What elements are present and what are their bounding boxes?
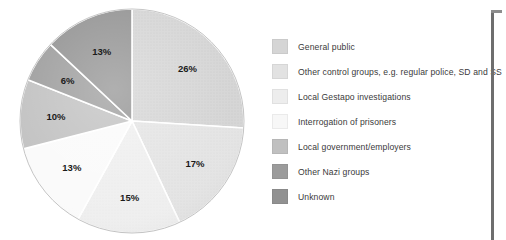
legend-item-label: General public: [298, 42, 355, 52]
pie-slice-label: 13%: [92, 46, 112, 57]
chart-legend: General publicOther control groups, e.g.…: [272, 34, 484, 209]
legend-item-label: Local government/employers: [298, 142, 411, 152]
pie-slice-label: 13%: [62, 162, 82, 173]
legend-item[interactable]: Local Gestapo investigations: [272, 84, 484, 109]
legend-swatch-other-nazi-groups: [272, 164, 288, 179]
legend-item-label: Interrogation of prisoners: [298, 117, 396, 127]
legend-swatch-general-public: [272, 39, 288, 54]
legend-swatch-unknown: [272, 189, 288, 204]
pie-slice-label: 6%: [61, 75, 75, 86]
legend-item-label: Other control groups, e.g. regular polic…: [298, 67, 502, 77]
pie-chart-svg: 26%17%15%13%10%6%13%: [18, 8, 246, 234]
pie-slice-label: 15%: [120, 192, 140, 203]
pie-chart-plot-area: 26%17%15%13%10%6%13%: [18, 8, 246, 234]
pie-slice-label: 26%: [178, 63, 198, 74]
legend-item[interactable]: Other control groups, e.g. regular polic…: [272, 59, 484, 84]
legend-item[interactable]: Unknown: [272, 184, 484, 209]
pie-chart-figure: 26%17%15%13%10%6%13% General publicOther…: [0, 0, 506, 240]
legend-swatch-local-government-employers: [272, 139, 288, 154]
pie-slice-label: 10%: [46, 111, 66, 122]
page-edge-rule: [491, 10, 494, 240]
legend-item[interactable]: Interrogation of prisoners: [272, 109, 484, 134]
legend-swatch-local-gestapo-investigations: [272, 89, 288, 104]
legend-item[interactable]: Other Nazi groups: [272, 159, 484, 184]
legend-swatch-other-control-groups: [272, 64, 288, 79]
legend-swatch-interrogation-of-prisoners: [272, 114, 288, 129]
page-edge-rule-cap: [491, 10, 502, 13]
legend-item-label: Local Gestapo investigations: [298, 92, 411, 102]
legend-item-label: Unknown: [298, 192, 335, 202]
legend-item-label: Other Nazi groups: [298, 167, 369, 177]
legend-item[interactable]: General public: [272, 34, 484, 59]
legend-item[interactable]: Local government/employers: [272, 134, 484, 159]
pie-slice-label: 17%: [185, 158, 205, 169]
